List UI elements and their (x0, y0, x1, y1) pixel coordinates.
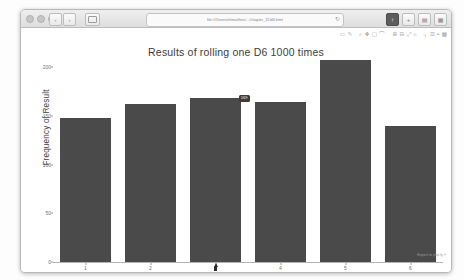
y-axis-tick-mark (51, 213, 53, 214)
bar[interactable] (255, 102, 306, 263)
url-text: file:///Users/ehmatthes/.../chapter_15/d… (207, 18, 283, 22)
reload-icon[interactable]: ↻ (335, 16, 340, 22)
add-tab-button[interactable]: + (402, 13, 415, 26)
x-axis-tick-label: 4 (271, 265, 291, 271)
page-content: ▭ ✎ ⌕ ✥ ▢ ⌒ ⊞ ⊟ ⤢ ⌂ ┐ ☰ ▪ ▩ Results of r… (21, 28, 451, 272)
sidebar-toggle-button[interactable] (85, 13, 100, 26)
bar[interactable] (60, 118, 111, 262)
x-axis-tick-mark (280, 263, 281, 265)
mouse-cursor (214, 263, 218, 270)
x-axis-tick-label: 6 (401, 265, 421, 271)
browser-window: ‹ › file:///Users/ehmatthes/.../chapter_… (20, 9, 452, 273)
toolbar-right-buttons[interactable]: ↑ + ▤ ▦ (386, 13, 447, 26)
forward-button[interactable]: › (63, 13, 76, 26)
x-axis-tick-mark (150, 263, 151, 265)
x-axis-tick-mark (85, 263, 86, 265)
bar[interactable] (125, 104, 176, 262)
x-axis-tick-label: 2 (141, 265, 161, 271)
hover-tooltip: 169 (239, 95, 250, 102)
plot-area[interactable]: Frequency of Result Result 0501001502001… (21, 28, 451, 272)
bar[interactable] (190, 98, 241, 262)
back-button[interactable]: ‹ (49, 13, 62, 26)
browser-titlebar: ‹ › file:///Users/ehmatthes/.../chapter_… (21, 10, 451, 28)
minimize-window-button[interactable] (37, 15, 45, 23)
sidebar-icon (88, 16, 97, 23)
y-axis-tick-mark (51, 116, 53, 117)
close-window-button[interactable] (26, 15, 34, 23)
downloads-button[interactable]: ▦ (434, 13, 447, 26)
navigation-buttons[interactable]: ‹ › (49, 13, 76, 26)
x-axis-line (53, 262, 443, 263)
x-axis-tick-mark (410, 263, 411, 265)
x-axis-tick-label: 1 (76, 265, 96, 271)
x-axis-tick-mark (345, 263, 346, 265)
bar[interactable] (320, 60, 371, 262)
screen: ‹ › file:///Users/ehmatthes/.../chapter_… (0, 0, 464, 280)
share-button[interactable]: ↑ (386, 13, 399, 26)
bar[interactable] (385, 126, 436, 262)
x-axis-tick-label: 5 (336, 265, 356, 271)
y-axis-tick-mark (51, 164, 53, 165)
tab-overview-button[interactable]: ▤ (418, 13, 431, 26)
y-axis-tick-mark (51, 67, 53, 68)
export-to-plotly-link[interactable]: Export to plot.ly » (417, 253, 446, 257)
address-bar[interactable]: file:///Users/ehmatthes/.../chapter_15/d… (146, 13, 344, 27)
